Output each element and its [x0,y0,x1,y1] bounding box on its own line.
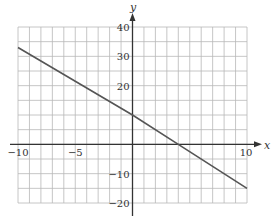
x-tick-label: −5 [68,147,83,158]
y-tick-label: −10 [108,169,129,180]
y-axis-arrow-icon [130,13,136,21]
y-tick-label: 20 [117,81,130,92]
x-axis-arrow-icon [254,141,262,147]
x-tick-label: 10 [240,147,253,158]
tick-labels: −10−510403020−10−20 [7,22,252,209]
x-tick-label: −10 [7,147,28,158]
y-tick-label: 40 [117,22,130,33]
y-tick-label: 30 [117,51,130,62]
x-axis-label: x [264,139,271,152]
line-chart: −10−510403020−10−20 x y [0,0,278,224]
y-tick-label: −20 [108,198,129,209]
y-axis-label: y [129,1,137,14]
